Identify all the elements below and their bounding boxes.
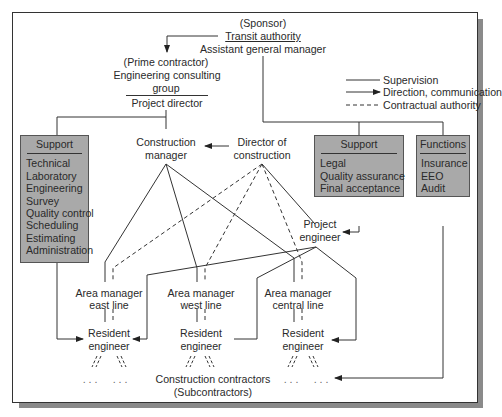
prime-contractor-divider xyxy=(126,95,208,96)
legend-direction: Direction, communication xyxy=(383,86,502,98)
contractor-ellipsis: . . . xyxy=(281,373,301,385)
functions-item: Audit xyxy=(417,182,469,194)
support-left-item: Technical xyxy=(21,157,88,169)
support-left-item: Scheduling xyxy=(21,219,88,231)
legend-contractual: Contractual authority xyxy=(383,99,481,111)
sponsor-title: Assistant general manager xyxy=(197,43,329,55)
support-right-item: Legal xyxy=(315,157,403,169)
area-manager-east-line2: east line xyxy=(72,299,146,311)
director-line2: construction xyxy=(227,149,297,161)
support-left-item: Estimating xyxy=(21,232,88,244)
construction-manager-line1: Construction xyxy=(131,136,201,148)
resident-engineer-west-line1: Resident xyxy=(176,327,226,339)
support-left-item: Quality control xyxy=(21,207,88,219)
resident-engineer-central-line1: Resident xyxy=(278,327,328,339)
construction-manager-line2: manager xyxy=(131,149,201,161)
resident-engineer-east-line1: Resident xyxy=(84,327,134,339)
resident-engineer-central-line2: engineer xyxy=(278,340,328,352)
support-left-item: Engineering xyxy=(21,182,88,194)
functions-box: Functions Insurance EEO Audit xyxy=(416,135,470,197)
support-left-item: Administration xyxy=(21,244,88,256)
contractors-line2: (Subcontractors) xyxy=(168,386,258,398)
prime-contractor-org-line2: group xyxy=(140,82,192,94)
functions-item: Insurance xyxy=(417,157,469,169)
prime-contractor-role: (Prime contractor) xyxy=(110,56,222,68)
support-left-header: Support xyxy=(27,136,82,154)
sponsor-org: Transit authority xyxy=(212,30,314,42)
contractors-line1: Construction contractors xyxy=(148,373,278,385)
functions-item: EEO xyxy=(417,170,469,182)
area-manager-west-line2: west line xyxy=(164,299,238,311)
support-right-item: Quality assurance xyxy=(315,170,403,182)
support-right-header: Support xyxy=(321,136,397,154)
support-box-left: Support Technical Laboratory Engineering… xyxy=(20,135,89,263)
area-manager-central-line2: central line xyxy=(261,299,335,311)
contractor-ellipsis: . . . xyxy=(80,373,100,385)
prime-contractor-org-line1: Engineering consulting xyxy=(102,69,232,81)
area-manager-central-line1: Area manager xyxy=(261,287,335,299)
resident-engineer-west-line2: engineer xyxy=(176,340,226,352)
project-engineer-line2: engineer xyxy=(295,231,345,243)
functions-header: Functions xyxy=(420,136,466,154)
director-line1: Director of xyxy=(227,136,297,148)
project-engineer-line1: Project xyxy=(295,218,345,230)
contractor-ellipsis: . . . xyxy=(311,373,331,385)
support-box-right: Support Legal Quality assurance Final ac… xyxy=(314,135,404,197)
resident-engineer-east-line2: engineer xyxy=(84,340,134,352)
support-left-item: Survey xyxy=(21,195,88,207)
sponsor-role: (Sponsor) xyxy=(212,17,314,29)
support-right-item: Final acceptance xyxy=(315,182,403,194)
area-manager-east-line1: Area manager xyxy=(72,287,146,299)
legend-supervision: Supervision xyxy=(383,74,438,86)
support-left-item: Laboratory xyxy=(21,170,88,182)
area-manager-west-line1: Area manager xyxy=(164,287,238,299)
project-director: Project director xyxy=(120,97,214,109)
contractor-ellipsis: . . . xyxy=(110,373,130,385)
